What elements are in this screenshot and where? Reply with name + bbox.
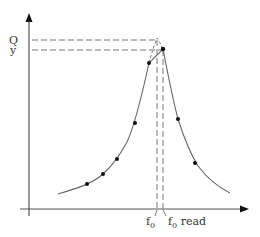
data-point xyxy=(176,117,180,121)
axes xyxy=(20,13,249,216)
data-point xyxy=(193,161,197,165)
resonance-diagram: Q y f0 f0 read xyxy=(0,0,260,237)
y-label: y xyxy=(9,44,17,57)
f0-tick-marks xyxy=(155,210,166,216)
data-point xyxy=(101,172,105,176)
x-axis-arrow-icon xyxy=(240,206,249,213)
resonance-curve xyxy=(58,49,230,194)
data-point xyxy=(147,61,151,65)
f0-label: f0 xyxy=(146,215,155,230)
data-point xyxy=(133,121,137,125)
reference-lines xyxy=(32,38,163,209)
data-points xyxy=(85,47,197,186)
y-axis-arrow-icon xyxy=(26,13,33,22)
f0-read-label: f0 read xyxy=(168,215,206,230)
data-point xyxy=(161,47,165,51)
data-point xyxy=(85,182,89,186)
data-point xyxy=(115,157,119,161)
